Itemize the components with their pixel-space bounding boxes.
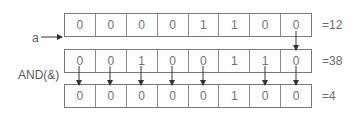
arrows-layer: [0, 0, 360, 113]
